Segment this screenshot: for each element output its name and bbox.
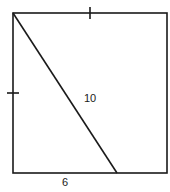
geometry-diagram: 10 6 [0, 0, 170, 192]
diagonal-segment [13, 13, 117, 173]
bottom-length-label: 6 [62, 176, 68, 188]
diagonal-length-label: 10 [84, 92, 96, 104]
